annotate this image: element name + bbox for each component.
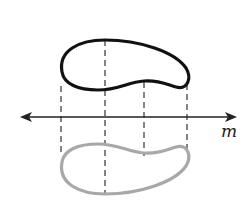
line-m xyxy=(20,112,237,122)
line-label: m xyxy=(221,121,237,141)
reflected-shape xyxy=(62,144,189,194)
original-shape xyxy=(62,40,189,90)
reflection-diagram: m xyxy=(0,0,250,212)
